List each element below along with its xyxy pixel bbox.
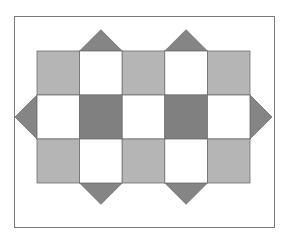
triangle-bottom: [165, 183, 208, 204]
triangle-top: [80, 30, 123, 51]
tile-light: [122, 51, 165, 95]
tile-light: [122, 139, 165, 183]
tile-pattern: [0, 0, 286, 237]
tile-light: [37, 139, 80, 183]
tile-dark: [165, 95, 208, 139]
tile-dark: [80, 95, 123, 139]
triangle-bottom: [80, 183, 123, 204]
tile-light: [37, 51, 80, 95]
triangle-right: [250, 95, 272, 139]
tile-white: [165, 51, 208, 95]
tile-white: [165, 139, 208, 183]
tile-white: [207, 95, 250, 139]
tile-light: [207, 51, 250, 95]
triangle-left: [15, 95, 37, 139]
tile-white: [80, 139, 123, 183]
tile-white: [80, 51, 123, 95]
tile-white: [122, 95, 165, 139]
tile-white: [37, 95, 80, 139]
tile-light: [207, 139, 250, 183]
triangle-top: [165, 30, 208, 51]
